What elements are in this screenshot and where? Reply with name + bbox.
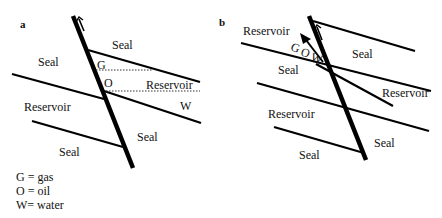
legend: G = gas O = oil W= water bbox=[16, 170, 64, 212]
label-reservoir: Reservoir bbox=[382, 86, 429, 100]
legend-item-water: W= water bbox=[16, 198, 64, 212]
panel-b: b Reservoir G O W Seal Seal Reservoir Re… bbox=[219, 16, 431, 162]
label-seal: Seal bbox=[352, 47, 373, 61]
label-oil: O bbox=[104, 76, 113, 90]
left-reservoir-bottom bbox=[32, 121, 123, 147]
legend-item-oil: O = oil bbox=[16, 184, 64, 198]
panel-a-label: a bbox=[20, 18, 26, 30]
label-reservoir: Reservoir bbox=[146, 78, 193, 92]
panel-b-label: b bbox=[219, 16, 225, 28]
fault-trap-diagram: a Seal Seal G O Reservoir W Reservoir Se… bbox=[0, 0, 442, 218]
label-water: W bbox=[180, 99, 192, 113]
label-seal: Seal bbox=[374, 136, 395, 150]
left-reservoir-top bbox=[12, 74, 104, 99]
panel-a: a Seal Seal G O Reservoir W Reservoir Se… bbox=[12, 16, 201, 168]
label-seal: Seal bbox=[299, 148, 320, 162]
label-seal: Seal bbox=[278, 63, 299, 77]
label-reservoir: Reservoir bbox=[268, 107, 315, 121]
label-seal: Seal bbox=[112, 38, 133, 52]
label-seal: Seal bbox=[137, 130, 158, 144]
label-gas: G bbox=[97, 58, 106, 72]
label-reservoir: Reservoir bbox=[24, 100, 71, 114]
label-seal: Seal bbox=[38, 55, 59, 69]
label-seal: Seal bbox=[59, 145, 80, 159]
legend-item-gas: G = gas bbox=[16, 170, 64, 184]
label-reservoir: Reservoir bbox=[243, 24, 290, 38]
fault-line bbox=[309, 16, 366, 160]
